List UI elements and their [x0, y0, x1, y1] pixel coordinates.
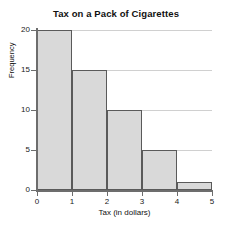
x-tick-mark [177, 191, 178, 196]
y-tick-mark [31, 30, 36, 31]
x-tick-label: 1 [62, 197, 82, 206]
y-tick-mark [31, 150, 36, 151]
y-tick-mark [31, 70, 36, 71]
bar [37, 30, 72, 190]
x-axis-line [36, 190, 213, 192]
chart-title: Tax on a Pack of Cigarettes [0, 8, 232, 19]
x-tick-mark [72, 191, 73, 196]
x-tick-mark [142, 191, 143, 196]
y-tick-label: 5 [8, 145, 30, 154]
x-tick-label: 5 [202, 197, 222, 206]
y-tick-label: 0 [8, 185, 30, 194]
x-axis-title: Tax (in dollars) [37, 208, 212, 217]
x-tick-label: 2 [97, 197, 117, 206]
x-tick-label: 0 [27, 197, 47, 206]
y-tick-label: 10 [8, 105, 30, 114]
y-axis-title: Frequency [7, 43, 16, 78]
x-tick-label: 3 [132, 197, 152, 206]
bar [177, 182, 212, 190]
x-tick-mark [37, 191, 38, 196]
bar [107, 110, 142, 190]
y-axis-line [36, 28, 38, 191]
histogram-figure: Tax on a Pack of Cigarettes 05101520 012… [0, 0, 232, 231]
bar [72, 70, 107, 190]
y-tick-mark [31, 110, 36, 111]
y-tick-mark [31, 190, 36, 191]
plot-area [37, 30, 212, 190]
x-tick-mark [107, 191, 108, 196]
y-tick-label: 20 [8, 25, 30, 34]
bars-group [37, 30, 212, 190]
bar [142, 150, 177, 190]
x-tick-mark [212, 191, 213, 196]
x-tick-label: 4 [167, 197, 187, 206]
